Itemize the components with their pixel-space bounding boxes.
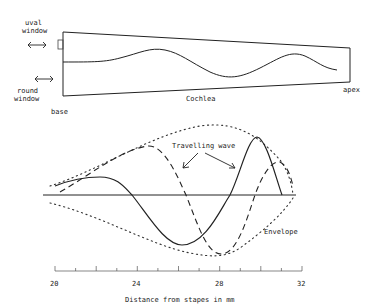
x-axis-title: Distance from stapes in mm <box>125 296 235 304</box>
lower-envelope-curve <box>50 198 293 256</box>
oval-window-membrane <box>58 40 63 49</box>
x-tick-label-20: 20 <box>50 280 58 288</box>
round-window-label-2: window <box>14 95 40 103</box>
wave-graph: Travelling wave Envelope <box>43 125 305 304</box>
apex-label: apex <box>343 86 360 94</box>
oval-window-arrow-icon <box>28 42 46 48</box>
cochlea-label: Cochlea <box>186 95 216 103</box>
travelling-wave-dashed-curve <box>60 146 293 254</box>
travelling-wave-annotation: Travelling wave <box>172 142 235 150</box>
x-tick-label-28: 28 <box>215 280 223 288</box>
round-window-label: round <box>17 87 38 95</box>
oval-window-label: uval <box>25 19 42 27</box>
round-window-arrow-icon <box>35 76 53 82</box>
cochlea-outline <box>63 32 350 96</box>
x-tick-label-32: 32 <box>297 280 305 288</box>
base-label: base <box>51 108 68 116</box>
travelling-wave-arrow-left-icon <box>183 153 198 168</box>
diagram-canvas: uval window round window base Cochlea ap… <box>0 0 370 307</box>
envelope-annotation: Envelope <box>264 228 298 236</box>
upper-envelope-curve <box>50 125 293 195</box>
x-tick-label-24: 24 <box>132 280 140 288</box>
travelling-wave-arrow-right-icon <box>205 153 235 168</box>
x-axis <box>55 266 302 271</box>
travelling-wave-solid-curve <box>55 137 282 245</box>
basilar-membrane-wave <box>63 49 337 77</box>
oval-window-label-2: window <box>22 27 48 35</box>
cochlea-schematic: uval window round window base Cochlea ap… <box>14 19 360 116</box>
